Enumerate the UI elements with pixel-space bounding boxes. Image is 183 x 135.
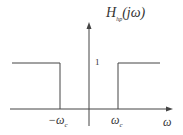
x-axis-label: ω: [163, 115, 171, 130]
x-tick-neg-wc: −ωc: [48, 113, 68, 129]
y-tick-one: 1: [95, 57, 100, 67]
right-passband: [118, 63, 160, 109]
y-axis-arrow-icon: [87, 22, 92, 29]
x-tick-wc: ωc: [111, 113, 123, 129]
x-axis-arrow-icon: [166, 107, 173, 112]
left-passband: [12, 63, 60, 109]
filter-plot: [0, 0, 183, 135]
function-label: Hhp(jω): [106, 5, 145, 22]
